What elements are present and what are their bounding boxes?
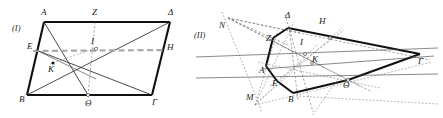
panel-2-label-A: Α (258, 65, 265, 75)
panel-2-label-D: Δ (284, 10, 290, 20)
panel-2-vertex-label-group: ΝΔΗΖΙΓΚΑΕΘΒΜ (218, 10, 424, 104)
panel-1-label-H: Η (166, 42, 174, 52)
panel-1-label-A: Α (40, 7, 47, 17)
panel-2-label-K: Κ (311, 54, 319, 64)
panel-1-diag-A-Theta (44, 22, 88, 95)
panel-2-ray-Delta-B (289, 26, 298, 100)
panel-2-label-M: Μ (245, 92, 254, 102)
panel-2-ray-N-M (222, 12, 262, 112)
panel-2-pencil-M-Delta (255, 22, 294, 105)
panel-1-point-Theta (86, 93, 89, 96)
panel-2-side-Z-Delta (273, 28, 288, 38)
panel-1-line-B-Delta (27, 22, 170, 95)
panel-1-label-E: Ε (26, 41, 33, 51)
panel-2-point-H-2 (329, 37, 332, 40)
panel-2-label-N: Ν (218, 20, 226, 30)
panel-1-label-G: Γ (151, 97, 158, 107)
panel-2-ray-Theta-down (312, 76, 340, 116)
panel-2-label-G: Γ (417, 56, 424, 66)
geometry-figure-container: (I)(II) ΑΖΔΕΙΗΚΒΘΓ ΝΔΗΖΙΓΚΑΕΘΒΜ (0, 0, 443, 118)
panel-2-label-Th: Θ (343, 80, 350, 90)
panel-1-side-DG (152, 22, 170, 95)
panel-2-ray-A-Gamma (262, 56, 434, 69)
panel-1-point-I (94, 47, 97, 50)
panel-caption-panel-1: (I) (12, 23, 21, 33)
panel-2-label-H: Η (318, 16, 326, 26)
panel-1-line-E-H (33, 50, 166, 51)
panel-1-label-K: Κ (47, 64, 55, 74)
panel-1-label-D: Δ (167, 7, 173, 17)
panel-2-point-I-2 (304, 53, 307, 56)
panel-1-segment-group (27, 22, 170, 95)
panel-1-label-Z: Ζ (92, 7, 98, 17)
panel-2-segment-group (196, 12, 438, 116)
panel-1-side-AB (27, 22, 44, 95)
panel-2-label-I: Ι (299, 37, 304, 47)
panel-2-ray-E-H (270, 30, 344, 86)
panel-1-line-Z-Theta (88, 22, 95, 95)
panel-2-label-E: Ε (271, 78, 278, 88)
panel-2-pencil-N-Delta (228, 18, 300, 33)
panel-2-ray-B-right (296, 96, 438, 104)
panel-2-point-group (304, 37, 350, 82)
panel-1-label-I: Ι (90, 36, 95, 46)
panel-caption-panel-2: (II) (194, 30, 205, 40)
panel-1-label-Th: Θ (85, 98, 92, 108)
panel-2-side-B-E (277, 81, 293, 93)
panel-2-side-Delta-Gamma (288, 28, 420, 54)
panel-2-side-Theta-B (293, 80, 348, 93)
panel-1-label-B: Β (19, 94, 25, 104)
panel-2-label-B: Β (288, 94, 294, 104)
geometry-svg-canvas: (I)(II) ΑΖΔΕΙΗΚΒΘΓ ΝΔΗΖΙΓΚΑΕΘΒΜ (0, 0, 443, 118)
